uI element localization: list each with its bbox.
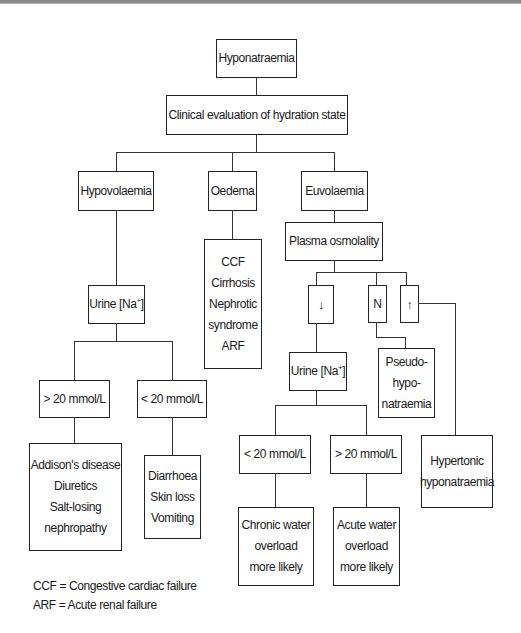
- connector: [334, 152, 335, 172]
- cause-item: nephropathy: [44, 518, 106, 539]
- node-label: Euvolaemia: [305, 181, 364, 202]
- node-label: Plasma osmolality: [289, 231, 379, 252]
- up-arrow-icon: ↑: [406, 294, 412, 315]
- cause-item: CCF: [221, 252, 244, 273]
- cause-item: Diuretics: [54, 476, 97, 497]
- connector: [232, 210, 233, 240]
- legend-item: CCF = Congestive cardiac failure: [33, 577, 197, 596]
- node-extrarenal-losses: Diarrhoea Skin loss Vomiting: [144, 455, 201, 539]
- connector: [116, 323, 117, 342]
- node-label: N: [373, 294, 381, 315]
- cause-item: Vomiting: [151, 508, 194, 529]
- cause-item: syndrome: [208, 315, 258, 336]
- node-euvolaemia: Euvolaemia: [301, 171, 368, 211]
- connector: [74, 341, 173, 342]
- connector: [376, 322, 377, 338]
- node-label: Pseudo-: [386, 352, 428, 373]
- connector: [275, 405, 276, 436]
- connector: [455, 303, 456, 436]
- legend-item: ARF = Acute renal failure: [33, 596, 197, 615]
- connector: [316, 272, 317, 286]
- connector: [376, 337, 406, 338]
- node-osmolality-high: ↑: [400, 285, 419, 323]
- connector: [316, 323, 317, 353]
- node-euvolaemia-urine-sodium: Urine [Na+]: [289, 352, 347, 391]
- connector: [376, 272, 377, 286]
- cause-item: Salt-losing: [50, 497, 102, 518]
- node-chronic-water-overload: Chronic water overload more likely: [238, 507, 314, 586]
- node-oedema: Oedema: [208, 171, 257, 211]
- node-renal-losses: Addison's disease Diuretics Salt-losing …: [29, 443, 122, 551]
- node-label: hypo-: [392, 373, 420, 394]
- connector: [418, 303, 456, 304]
- cause-item: ARF: [222, 336, 245, 357]
- connector: [172, 341, 173, 381]
- cause-item: Skin loss: [150, 487, 194, 508]
- connector: [256, 134, 257, 153]
- connector: [275, 473, 276, 508]
- node-label: Urine [Na+]: [89, 294, 143, 315]
- node-label: Clinical evaluation of hydration state: [169, 105, 346, 126]
- node-label: > 20 mmol/L: [335, 444, 397, 465]
- connector: [316, 390, 317, 406]
- node-clinical-evaluation: Clinical evaluation of hydration state: [166, 95, 348, 135]
- node-label: more likely: [340, 557, 393, 578]
- node-label: more likely: [250, 557, 303, 578]
- node-hypovolaemia-high: > 20 mmol/L: [39, 380, 110, 418]
- connector: [74, 417, 75, 444]
- node-hypertonic-hyponatraemia: Hypertonic hyponatraemia: [421, 435, 493, 508]
- connector: [366, 473, 367, 508]
- node-label: Hypovolaemia: [80, 181, 151, 202]
- node-hypovolaemia-urine-sodium: Urine [Na+]: [88, 285, 145, 324]
- connector: [316, 272, 407, 273]
- connector: [366, 405, 367, 436]
- abbreviation-legend: CCF = Congestive cardiac failure ARF = A…: [33, 577, 197, 615]
- connector: [74, 341, 75, 381]
- node-label: natraemia: [382, 394, 432, 415]
- connector: [172, 417, 173, 456]
- connector: [232, 152, 233, 172]
- connector: [116, 210, 117, 286]
- node-plasma-osmolality: Plasma osmolality: [285, 222, 383, 261]
- connector: [116, 152, 335, 153]
- node-label: > 20 mmol/L: [44, 389, 106, 410]
- node-label: Chronic water: [242, 515, 311, 536]
- node-label: Urine [Na+]: [291, 361, 345, 382]
- node-hyponatraemia: Hyponatraemia: [216, 39, 297, 78]
- node-label: Hyponatraemia: [218, 48, 294, 69]
- cause-item: Addison's disease: [31, 455, 121, 476]
- node-osmolality-low: ↓: [308, 285, 334, 324]
- node-label: < 20 mmol/L: [244, 444, 306, 465]
- node-hypovolaemia: Hypovolaemia: [78, 171, 154, 211]
- node-acute-water-overload: Acute water overload more likely: [333, 507, 400, 586]
- node-label: < 20 mmol/L: [141, 389, 203, 410]
- node-label: overload: [255, 536, 298, 557]
- node-hypovolaemia-low: < 20 mmol/L: [137, 380, 207, 418]
- connector: [116, 152, 117, 172]
- top-border: [0, 0, 521, 4]
- node-euvolaemia-urine-low: < 20 mmol/L: [239, 435, 311, 474]
- connector: [256, 77, 257, 96]
- node-oedema-causes: CCF Cirrhosis Nephrotic syndrome ARF: [204, 239, 262, 369]
- node-osmolality-normal: N: [368, 285, 387, 323]
- connector: [275, 405, 367, 406]
- cause-item: Diarrhoea: [148, 466, 197, 487]
- node-label: overload: [345, 536, 388, 557]
- node-label: Hypertonic: [430, 451, 483, 472]
- node-label: Acute water: [337, 515, 396, 536]
- node-pseudohyponatraemia: Pseudo- hypo- natraemia: [378, 348, 435, 418]
- cause-item: Cirrhosis: [211, 273, 255, 294]
- node-label: Oedema: [211, 181, 255, 202]
- node-euvolaemia-urine-high: > 20 mmol/L: [330, 435, 402, 474]
- connector: [406, 272, 407, 286]
- cause-item: Nephrotic: [209, 294, 257, 315]
- node-label: hyponatraemia: [420, 472, 494, 493]
- down-arrow-icon: ↓: [318, 294, 324, 315]
